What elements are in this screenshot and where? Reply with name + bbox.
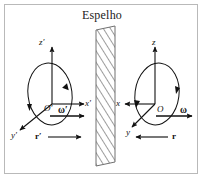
mirror-image-frame [20, 47, 84, 137]
object-frame [125, 47, 192, 137]
right-r-label: r [172, 132, 176, 141]
right-axis-y [132, 104, 155, 127]
right-axis-x-label: x [116, 99, 120, 108]
left-spin-ellipse [24, 61, 75, 128]
diagram-canvas [0, 0, 204, 180]
left-omega-label: ω′ [58, 106, 68, 116]
right-spin-ellipse [131, 61, 182, 128]
right-omega-label: ω [180, 106, 187, 116]
left-axis-z-label: z′ [39, 38, 44, 47]
mirror-plane [96, 26, 115, 166]
right-axis-y-label: y [126, 128, 130, 137]
left-axis-y-label: y′ [11, 131, 17, 140]
left-r-label: r′ [35, 132, 42, 141]
mirror-reflection-diagram: Espelho [0, 0, 204, 180]
left-axis-x-label: x′ [85, 99, 91, 108]
right-axis-z-label: z [152, 38, 156, 47]
right-origin-label: O [157, 105, 164, 114]
left-origin-label: O′ [44, 104, 52, 113]
